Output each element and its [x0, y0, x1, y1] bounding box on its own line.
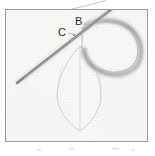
point-label-c: C	[58, 26, 66, 38]
needle-tip	[16, 81, 18, 83]
stitch-point-b	[83, 27, 85, 29]
embroidery-figure: B C	[0, 0, 155, 156]
point-label-b: B	[75, 15, 82, 27]
photo-content: B C	[0, 8, 155, 150]
figure-canvas: B C	[0, 0, 155, 156]
